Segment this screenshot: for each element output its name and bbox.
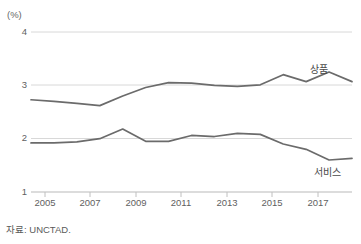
xtick-label-2007: 2007 xyxy=(70,197,110,208)
gridlines xyxy=(31,32,352,192)
ytick-label-3: 3 xyxy=(5,79,27,90)
line-series-goods xyxy=(31,72,352,106)
series-label-services: 서비스 xyxy=(314,164,341,179)
xtick-label-2013: 2013 xyxy=(207,197,247,208)
source-note: 자료: UNCTAD. xyxy=(6,222,71,236)
line-series-services xyxy=(31,129,352,160)
xtick-label-2011: 2011 xyxy=(161,197,201,208)
xtick-label-2009: 2009 xyxy=(116,197,156,208)
xtick-label-2005: 2005 xyxy=(25,197,65,208)
xtick-label-2017: 2017 xyxy=(298,197,338,208)
series-label-goods: 상품 xyxy=(310,61,328,76)
xtick-label-2015: 2015 xyxy=(252,197,292,208)
ytick-label-4: 4 xyxy=(5,26,27,37)
ytick-label-2: 2 xyxy=(5,132,27,143)
chart-container: (%) 4 3 2 1 2005 2007 2009 2011 2013 201… xyxy=(0,0,361,244)
ytick-label-1: 1 xyxy=(5,186,27,197)
